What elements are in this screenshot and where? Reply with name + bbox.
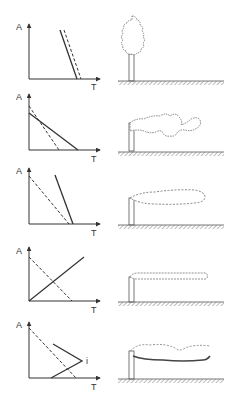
chimney-fumigation-plume-icon [118, 344, 224, 383]
graph-row-4: A T [16, 246, 100, 315]
x-axis-label: T [91, 154, 97, 164]
x-axis-label: T [91, 82, 97, 92]
graph-row-5: A T i [16, 320, 100, 392]
tree-icon [118, 16, 224, 85]
adiabatic-lapse-line [29, 106, 59, 150]
chimney-coning-plume-icon [118, 190, 224, 229]
environmental-lapse-line [29, 257, 84, 301]
inversion-label: i [86, 356, 88, 366]
y-axis-label: A [16, 22, 22, 32]
y-axis-label: A [16, 92, 22, 102]
graph-row-1: A T [16, 22, 100, 92]
graph-row-3: A T [16, 166, 100, 238]
graph-row-2: A T [16, 92, 100, 164]
lapse-rate-plume-diagram: A T A T A T [0, 0, 230, 417]
y-axis-label: A [16, 246, 22, 256]
y-axis-label: A [16, 166, 22, 176]
environmental-lapse-line [60, 30, 77, 79]
adiabatic-lapse-line [64, 30, 81, 79]
chimney-fanning-plume-icon [118, 273, 224, 306]
adiabatic-lapse-line [29, 176, 69, 224]
x-axis-label: T [91, 228, 97, 238]
x-axis-label: T [91, 382, 97, 392]
y-axis-label: A [16, 320, 22, 330]
environmental-lapse-line [55, 175, 73, 224]
chimney-looping-plume-icon [118, 114, 224, 156]
adiabatic-lapse-line [29, 257, 72, 301]
x-axis-label: T [91, 305, 97, 315]
environmental-lapse-line [29, 113, 78, 150]
inversion-lapse-line [51, 344, 82, 378]
